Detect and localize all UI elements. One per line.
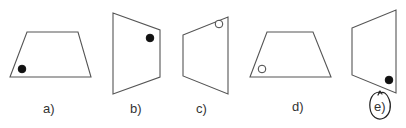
option-b[interactable]: b)	[113, 13, 160, 116]
option-label: b)	[130, 101, 142, 116]
quadrilateral-shape	[113, 13, 160, 94]
option-label: e)	[374, 99, 386, 114]
option-label: d)	[292, 99, 304, 114]
option-label: c)	[196, 101, 207, 116]
hollow-circle-icon	[215, 20, 223, 28]
option-d[interactable]: d)	[250, 32, 331, 114]
filled-dot-icon	[18, 65, 26, 73]
quadrilateral-shape	[183, 17, 228, 94]
option-label: a)	[43, 101, 55, 116]
option-a[interactable]: a)	[10, 32, 91, 116]
filled-dot-icon	[385, 76, 393, 84]
filled-dot-icon	[146, 34, 154, 42]
option-e[interactable]: e)	[352, 10, 396, 119]
figure-canvas: a) b) c) d) e)	[0, 0, 406, 128]
hollow-circle-icon	[258, 65, 266, 73]
option-c[interactable]: c)	[183, 17, 228, 116]
